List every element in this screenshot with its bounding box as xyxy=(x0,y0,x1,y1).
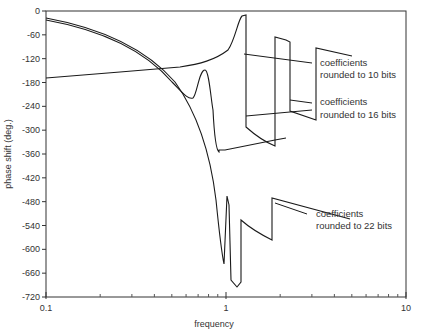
y-tick-label: -300 xyxy=(22,125,40,135)
curve-22-bits xyxy=(46,18,350,287)
annotation-22-line1: coefficients xyxy=(316,208,364,219)
y-tick-label: -60 xyxy=(27,30,40,40)
y-axis-title: phase shift (deg.) xyxy=(3,119,13,189)
annotation-22-line2: rounded to 22 bits xyxy=(316,220,392,231)
y-tick-label: -120 xyxy=(22,54,40,64)
annotation-10-line2: rounded to 10 bits xyxy=(320,69,396,80)
y-tick-label: -180 xyxy=(22,78,40,88)
y-tick-label: -240 xyxy=(22,101,40,111)
annotation-16-line2: rounded to 16 bits xyxy=(320,109,396,120)
x-axis: 0.1110 xyxy=(40,292,411,313)
y-tick-label: -420 xyxy=(22,173,40,183)
leader-10-bits xyxy=(244,54,312,63)
x-axis-title: frequency xyxy=(194,319,234,329)
y-tick-label: -360 xyxy=(22,149,40,159)
curves xyxy=(46,15,352,287)
x-tick-label: 0.1 xyxy=(40,303,53,313)
y-tick-label: -600 xyxy=(22,244,40,254)
y-tick-label: -660 xyxy=(22,268,40,278)
leader-16-bits xyxy=(290,100,312,103)
x-tick-label: 1 xyxy=(223,303,228,313)
leader-22-bits xyxy=(275,203,307,214)
plot-frame xyxy=(46,11,406,297)
x-tick-label: 10 xyxy=(401,303,411,313)
annotation-16-line1: coefficients xyxy=(320,96,368,107)
curve-16-bits xyxy=(46,20,286,152)
annotations: coefficients rounded to 10 bits coeffici… xyxy=(316,57,396,231)
y-tick-label: 0 xyxy=(35,6,40,16)
y-tick-label: -720 xyxy=(22,292,40,302)
y-axis: 0-60-120-180-240-300-360-420-480-540-600… xyxy=(22,6,46,302)
y-tick-label: -480 xyxy=(22,197,40,207)
phase-shift-chart: 0-60-120-180-240-300-360-420-480-540-600… xyxy=(0,0,422,335)
annotation-10-line1: coefficients xyxy=(320,57,368,68)
y-tick-label: -540 xyxy=(22,221,40,231)
